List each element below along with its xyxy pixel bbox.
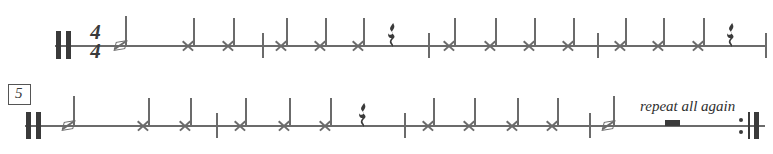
time-signature: 4 4 <box>84 23 106 62</box>
quarter-rest <box>725 22 737 48</box>
rehearsal-mark: 5 <box>8 84 31 105</box>
quarter-rest <box>357 102 369 128</box>
system-2: 5 <box>0 77 773 154</box>
barline <box>404 113 406 138</box>
system-1: 4 4 <box>0 0 773 77</box>
closing-barline <box>765 33 767 58</box>
whole-rest <box>665 120 680 126</box>
quarter-rest <box>386 22 398 48</box>
music-score: 4 4 <box>0 0 773 154</box>
barline <box>216 113 218 138</box>
barline <box>262 33 264 58</box>
barline <box>589 113 591 138</box>
time-signature-denominator: 4 <box>84 42 106 61</box>
barline <box>597 33 599 58</box>
direction-text: repeat all again <box>640 98 735 115</box>
barline <box>428 33 430 58</box>
